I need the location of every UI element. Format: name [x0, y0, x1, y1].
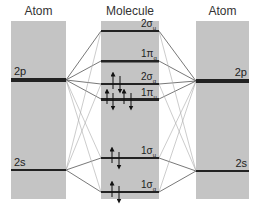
mo-1sigma-u: [101, 157, 159, 159]
right-2p-label: 2p: [235, 66, 247, 78]
mo-1sigma-g: [101, 191, 159, 193]
right-atom-panel: [196, 21, 249, 199]
mo-diagram: 2p 2p 2s 2s 2σu 1πg 2σg 1πu 1σu 1σg: [0, 0, 259, 211]
mo-1pi-u: [101, 98, 159, 101]
left-2p-label: 2p: [14, 65, 26, 77]
left-2s-label: 2s: [14, 156, 26, 168]
right-2s-level: [196, 170, 249, 172]
left-atom-panel: [11, 21, 66, 199]
left-2s-level: [11, 169, 66, 171]
right-2p-level: [196, 79, 249, 83]
mo-2sigma-g: [101, 83, 159, 85]
right-2s-label: 2s: [235, 157, 247, 169]
left-2p-level: [11, 78, 66, 82]
mo-1pi-g: [101, 60, 159, 63]
mo-2sigma-u: [101, 30, 159, 32]
